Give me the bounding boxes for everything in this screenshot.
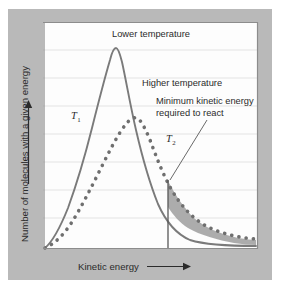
min-energy-text-1: Minimum kinetic energy <box>156 96 254 106</box>
maxwell-boltzmann-figure: Lower temperature Higher temperature Min… <box>0 0 284 294</box>
x-axis-label: Kinetic energy <box>78 261 139 272</box>
label-t1-subscript: 1 <box>77 116 80 123</box>
label-higher-temperature: Higher temperature <box>142 78 222 88</box>
label-lower-temperature: Lower temperature <box>112 29 190 39</box>
label-minimum-energy-line1: Minimum kinetic energy <box>156 96 254 106</box>
plot-area-background <box>43 22 258 249</box>
label-minimum-energy-line2: required to react <box>156 108 224 118</box>
label-t2-subscript: 2 <box>172 139 176 146</box>
min-energy-text-2: required to react <box>156 108 224 118</box>
